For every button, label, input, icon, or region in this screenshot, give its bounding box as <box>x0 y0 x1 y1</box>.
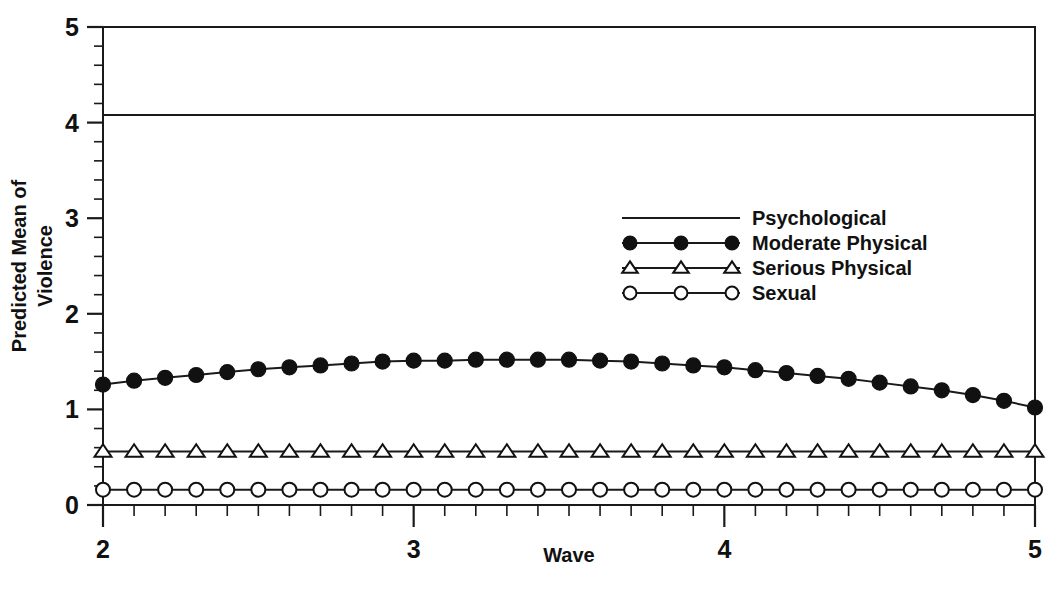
y-axis-title-line: Predicted Mean of <box>8 180 30 353</box>
marker-open-circle <box>345 483 359 497</box>
marker-open-circle <box>935 483 949 497</box>
marker-filled-circle <box>96 377 111 392</box>
marker-filled-circle <box>965 388 980 403</box>
marker-open-circle <box>624 483 638 497</box>
x-tick-label: 2 <box>96 535 110 563</box>
marker-open-circle <box>811 483 825 497</box>
x-tick-label: 5 <box>1028 535 1042 563</box>
marker-open-circle <box>779 483 793 497</box>
marker-filled-circle <box>313 358 328 373</box>
legend-label: Serious Physical <box>752 257 912 279</box>
marker-open-circle <box>96 483 110 497</box>
marker-open-circle <box>127 483 141 497</box>
marker-open-circle <box>717 483 731 497</box>
marker-filled-circle <box>530 352 545 367</box>
marker-open-circle <box>686 483 700 497</box>
marker-filled-circle <box>282 360 297 375</box>
marker-filled-circle <box>717 360 732 375</box>
marker-filled-circle <box>674 236 688 250</box>
marker-open-circle <box>997 483 1011 497</box>
y-axis-title-line: Violence <box>34 225 56 307</box>
marker-filled-circle <box>624 354 639 369</box>
marker-open-circle <box>220 483 234 497</box>
marker-open-circle <box>904 483 918 497</box>
marker-open-circle <box>158 483 172 497</box>
marker-filled-circle <box>748 363 763 378</box>
marker-filled-circle <box>779 366 794 381</box>
chart-figure: 2345 012345 PsychologicalModerate Physic… <box>0 0 1061 592</box>
y-tick-label: 3 <box>65 204 79 232</box>
y-tick-label: 2 <box>65 300 79 328</box>
marker-filled-circle <box>437 353 452 368</box>
marker-filled-circle <box>872 375 887 390</box>
x-axis-title: Wave <box>543 544 595 566</box>
marker-filled-circle <box>655 356 670 371</box>
marker-open-circle <box>313 483 327 497</box>
marker-filled-circle <box>562 352 577 367</box>
marker-filled-circle <box>623 236 637 250</box>
marker-filled-circle <box>158 370 173 385</box>
marker-filled-circle <box>251 362 266 377</box>
y-tick-label: 5 <box>65 13 79 41</box>
marker-open-circle <box>251 483 265 497</box>
marker-filled-circle <box>841 371 856 386</box>
marker-open-circle <box>1028 483 1042 497</box>
y-tick-label: 0 <box>65 491 79 519</box>
marker-open-circle <box>593 483 607 497</box>
y-tick-label: 1 <box>65 395 79 423</box>
marker-filled-circle <box>996 393 1011 408</box>
marker-filled-circle <box>344 356 359 371</box>
marker-filled-circle <box>903 379 918 394</box>
chart-background <box>0 0 1061 592</box>
marker-open-circle <box>189 483 203 497</box>
marker-filled-circle <box>375 354 390 369</box>
marker-filled-circle <box>810 368 825 383</box>
marker-filled-circle <box>468 352 483 367</box>
marker-filled-circle <box>1028 400 1043 415</box>
marker-open-circle <box>726 287 739 300</box>
marker-open-circle <box>966 483 980 497</box>
marker-filled-circle <box>189 367 204 382</box>
marker-open-circle <box>562 483 576 497</box>
marker-open-circle <box>842 483 856 497</box>
y-tick-label: 4 <box>65 109 79 137</box>
marker-open-circle <box>438 483 452 497</box>
marker-open-circle <box>873 483 887 497</box>
marker-filled-circle <box>406 353 421 368</box>
marker-open-circle <box>675 287 688 300</box>
line-chart: 2345 012345 PsychologicalModerate Physic… <box>0 0 1061 592</box>
marker-filled-circle <box>499 352 514 367</box>
legend-label: Psychological <box>752 207 887 229</box>
marker-filled-circle <box>725 236 739 250</box>
marker-open-circle <box>748 483 762 497</box>
marker-open-circle <box>469 483 483 497</box>
legend-label: Sexual <box>752 282 816 304</box>
marker-open-circle <box>500 483 514 497</box>
x-tick-label: 3 <box>407 535 421 563</box>
marker-open-circle <box>624 287 637 300</box>
marker-open-circle <box>282 483 296 497</box>
marker-filled-circle <box>934 383 949 398</box>
legend-label: Moderate Physical <box>752 232 928 254</box>
marker-filled-circle <box>593 353 608 368</box>
marker-filled-circle <box>686 358 701 373</box>
marker-open-circle <box>376 483 390 497</box>
marker-open-circle <box>655 483 669 497</box>
marker-filled-circle <box>220 365 235 380</box>
x-tick-label: 4 <box>717 535 731 563</box>
marker-filled-circle <box>127 373 142 388</box>
marker-open-circle <box>531 483 545 497</box>
marker-open-circle <box>407 483 421 497</box>
